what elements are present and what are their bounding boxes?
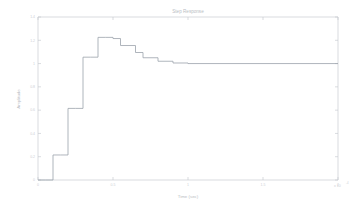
y-tick-label: 1.2 — [30, 39, 35, 43]
y-tick-label: 0.2 — [30, 155, 35, 159]
plot-title: Step Response — [172, 9, 204, 14]
y-tick-label: 0.4 — [30, 132, 35, 136]
x-axis-exponent: x 10 — [334, 184, 341, 188]
x-axis-exponent-superscript: -4 — [346, 181, 349, 185]
y-tick-label: 0 — [33, 178, 35, 182]
y-tick-label: 1 — [33, 62, 35, 66]
y-tick-label: 1.4 — [30, 15, 35, 19]
x-tick-label: 1.5 — [261, 183, 266, 187]
x-axis-label: Time (sec) — [178, 194, 199, 199]
step-response-plot: Step Response 00.20.40.60.811.21.4 00.51… — [0, 0, 360, 214]
x-tick-label: 0.5 — [111, 183, 116, 187]
y-tick-label: 0.6 — [30, 108, 35, 112]
x-tick-label: 1 — [187, 183, 189, 187]
y-axis-label: Amplitude — [16, 89, 21, 109]
x-tick-label: 0 — [37, 183, 39, 187]
y-tick-label: 0.8 — [30, 85, 35, 89]
figure-canvas: Step Response 00.20.40.60.811.21.4 00.51… — [0, 0, 360, 214]
